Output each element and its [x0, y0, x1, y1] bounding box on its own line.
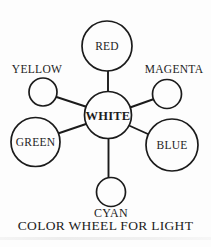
connector-white-yellow: [55, 97, 87, 108]
node-circle-cyan: [97, 178, 126, 207]
node-label-magenta: MAGENTA: [145, 63, 204, 75]
connector-white-blue: [129, 126, 149, 135]
diagram-caption: COLOR WHEEL FOR LIGHT: [18, 218, 194, 233]
color-wheel-diagram: RED WHITE GREEN BLUE YELLOW MAGENTA CYAN…: [0, 0, 211, 247]
scan-artifact-band: [0, 237, 211, 240]
node-label-red: RED: [95, 40, 119, 52]
node-label-green: GREEN: [16, 136, 56, 148]
node-label-white: WHITE: [86, 109, 131, 123]
node-circle-magenta: [153, 80, 182, 109]
node-circle-yellow: [29, 78, 57, 106]
scanned-figure: RED WHITE GREEN BLUE YELLOW MAGENTA CYAN…: [0, 0, 211, 247]
node-label-blue: BLUE: [157, 139, 188, 151]
connector-white-magenta: [130, 99, 154, 108]
node-label-yellow: YELLOW: [12, 63, 62, 75]
connector-white-green: [58, 124, 86, 134]
